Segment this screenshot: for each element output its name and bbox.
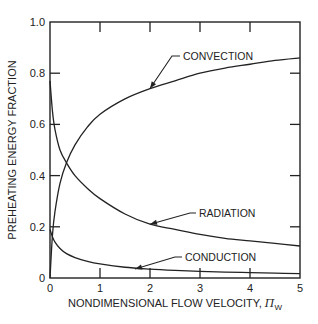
y-tick-label: 0.8 xyxy=(30,67,45,79)
annotation-radiation: RADIATION xyxy=(199,207,255,219)
series-annotations: CONVECTIONRADIATIONCONDUCTION xyxy=(135,50,256,270)
data-series xyxy=(50,58,300,278)
annotation-leader xyxy=(135,257,182,269)
annotation-convection: CONVECTION xyxy=(183,50,253,62)
y-tick-label: 0.4 xyxy=(30,170,45,182)
arrowhead-icon xyxy=(150,220,157,225)
x-tick-label: 1 xyxy=(97,282,103,294)
annotation-leader xyxy=(150,213,196,224)
chart-canvas: 012345 00.20.40.60.81.0 CONVECTIONRADIAT… xyxy=(0,0,318,324)
arrowhead-icon xyxy=(135,265,142,270)
x-axis-title: NONDIMENSIONAL FLOW VELOCITY, ΠW xyxy=(68,297,282,312)
series-conduction-line xyxy=(50,229,300,273)
annotation-conduction: CONDUCTION xyxy=(185,251,256,263)
x-tick-label: 3 xyxy=(197,282,203,294)
y-tick-label: 0.2 xyxy=(30,221,45,233)
series-convection-line xyxy=(50,58,300,278)
y-axis-title: PREHEATING ENERGY FRACTION xyxy=(6,60,18,239)
y-tick-label: 0.6 xyxy=(30,118,45,130)
x-tick-label: 5 xyxy=(297,282,303,294)
plot-frame xyxy=(50,22,300,278)
x-tick-label: 0 xyxy=(47,282,53,294)
x-tick-label: 4 xyxy=(247,282,253,294)
y-tick-label: 1.0 xyxy=(30,16,45,28)
series-radiation-line xyxy=(50,81,300,246)
x-tick-label: 2 xyxy=(147,282,153,294)
y-axis-ticks: 00.20.40.60.81.0 xyxy=(30,16,300,284)
x-axis-ticks: 012345 xyxy=(47,22,303,294)
y-tick-label: 0 xyxy=(39,272,45,284)
